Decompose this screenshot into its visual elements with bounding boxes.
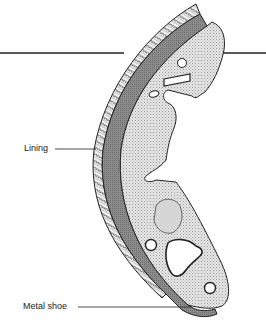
metal-shoe-label: Metal shoe [23,302,67,311]
top-hole [178,59,187,68]
lower-left-hole [146,240,157,251]
brake-shoe-diagram: Lining Metal shoe [0,0,266,329]
raised-pad [154,199,182,233]
lower-right-hole [205,283,216,294]
lining-label: Lining [24,144,48,153]
